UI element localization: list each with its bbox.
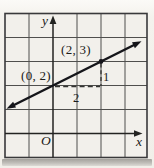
rise-value-label: 1 — [103, 71, 109, 84]
origin-label: O — [41, 134, 51, 148]
point-label-2-3: (2, 3) — [61, 43, 91, 56]
point-label-0-2: (0, 2) — [21, 69, 51, 82]
y-axis-label: y — [42, 14, 48, 28]
x-axis-label: x — [136, 135, 142, 149]
point-2-3-dot — [99, 59, 104, 64]
figure-canvas: y x O (0, 2) (2, 3) 1 2 — [0, 0, 154, 168]
coordinate-grid-figure — [0, 0, 154, 168]
run-value-label: 2 — [73, 92, 79, 105]
scan-shadow-band — [2, 159, 152, 166]
